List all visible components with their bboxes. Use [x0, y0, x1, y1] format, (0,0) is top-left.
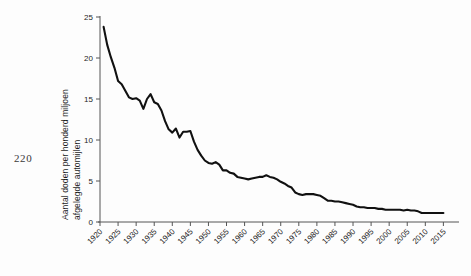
x-tick-label: 1975: [284, 227, 303, 246]
x-tick-label: 1945: [176, 227, 195, 246]
x-tick-label: 1935: [140, 227, 159, 246]
x-tick-label: 1930: [122, 227, 141, 246]
y-tick-label: 5: [89, 177, 94, 186]
x-tick-label: 2010: [411, 227, 430, 246]
x-tick-label: 1925: [104, 227, 123, 246]
chart-figure: 220 Aantal doden per honderd miljoen afg…: [0, 0, 471, 276]
data-series-line: [104, 27, 444, 213]
x-axis: 1920192519301935194019451950195519601965…: [85, 222, 459, 246]
y-tick-label: 15: [84, 95, 93, 104]
x-tick-label: 1995: [357, 227, 376, 246]
chart-plot-area: 0510152025 19201925193019351940194519501…: [0, 0, 471, 276]
x-tick-label: 1965: [248, 227, 267, 246]
x-tick-label: 2005: [393, 227, 412, 246]
y-tick-label: 10: [84, 136, 93, 145]
y-tick-label: 25: [84, 13, 93, 22]
x-tick-label: 1990: [338, 227, 357, 246]
x-tick-label: 2000: [375, 227, 394, 246]
y-axis: 0510152025: [84, 13, 100, 227]
x-tick-label: 1920: [85, 227, 104, 246]
x-tick-label: 1970: [266, 227, 285, 246]
x-tick-label: 2015: [429, 227, 448, 246]
x-tick-label: 1985: [320, 227, 339, 246]
y-tick-label: 20: [84, 54, 93, 63]
x-tick-label: 1940: [158, 227, 177, 246]
x-tick-label: 1950: [194, 227, 213, 246]
y-tick-label: 0: [89, 218, 94, 227]
x-tick-label: 1960: [230, 227, 249, 246]
x-tick-label: 1980: [302, 227, 321, 246]
x-tick-label: 1955: [212, 227, 231, 246]
